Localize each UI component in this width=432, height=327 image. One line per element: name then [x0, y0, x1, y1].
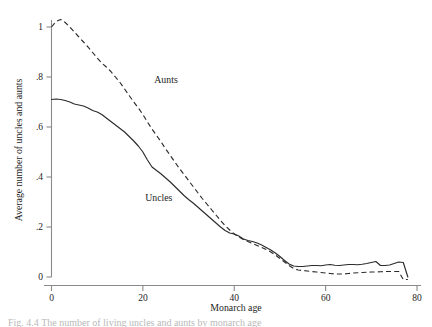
y-tick-label: .4: [36, 172, 43, 182]
x-tick-label: 80: [412, 293, 422, 303]
y-tick-label: 0: [38, 272, 43, 282]
series-line-uncles: [52, 99, 408, 277]
y-tick-label: 1: [38, 22, 43, 32]
series-annotations: AuntsUncles: [145, 74, 178, 203]
series-label-uncles: Uncles: [145, 192, 172, 203]
y-tick-label: .2: [36, 222, 43, 232]
y-tick-label: .8: [36, 72, 43, 82]
x-tick-label: 20: [138, 293, 148, 303]
y-axis-title: Average number of uncles and aunts: [13, 78, 24, 221]
series-label-aunts: Aunts: [154, 74, 178, 85]
series-line-aunts: [52, 20, 408, 280]
x-axis-title: Monarch age: [210, 302, 262, 313]
y-tick-label: .6: [36, 122, 43, 132]
figure-caption: Fig. 4.4 The number of living uncles and…: [8, 316, 428, 327]
x-axis-ticks: 020406080: [49, 286, 422, 304]
x-tick-label: 0: [49, 293, 54, 303]
y-axis-ticks: 0.2.4.6.81: [36, 22, 52, 282]
x-tick-label: 60: [321, 293, 331, 303]
